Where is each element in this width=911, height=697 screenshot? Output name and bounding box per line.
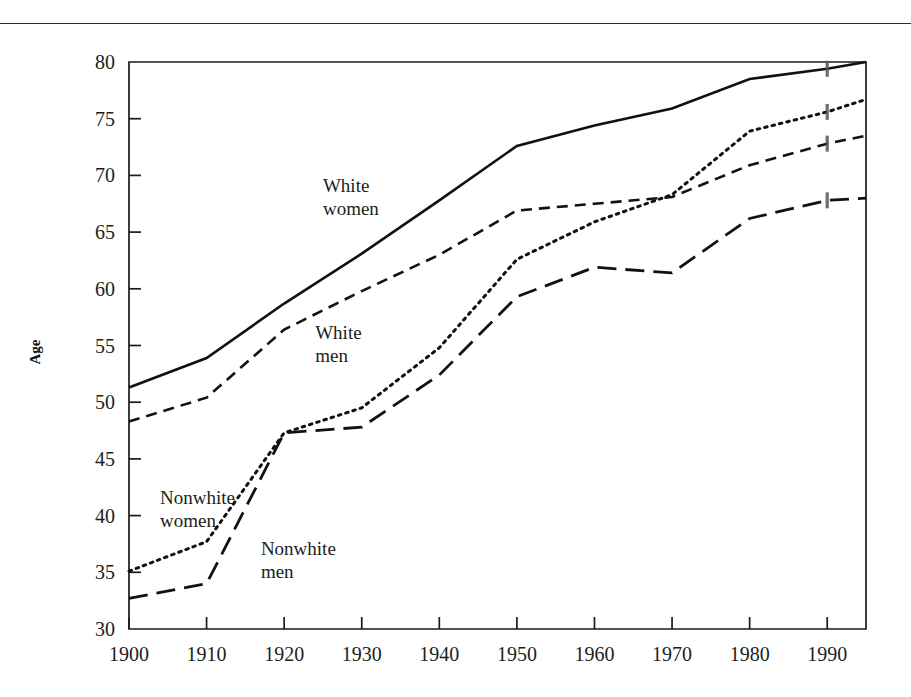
y-tick-label: 60 [95,278,115,300]
y-tick-label: 80 [95,51,115,73]
series-label-1: Whitemen [315,322,361,366]
x-tick-label: 1920 [264,643,304,665]
series-line-3 [129,198,866,598]
x-tick-label: 1950 [497,643,537,665]
y-tick-label: 50 [95,391,115,413]
y-tick-label: 45 [95,448,115,470]
axes-group [129,62,866,629]
x-tick-label: 1980 [730,643,770,665]
x-tick-label: 1930 [342,643,382,665]
y-tick-label: 35 [95,561,115,583]
y-tick-label: 55 [95,335,115,357]
x-tick-label: 1900 [109,643,149,665]
line-chart: 3035404550556065707580 19001910192019301… [0,0,911,697]
data-series-group [129,62,866,598]
y-tick-label: 30 [95,618,115,640]
series-label-3: Nonwhitemen [261,538,336,582]
y-tick-label: 40 [95,505,115,527]
y-tick-label: 75 [95,108,115,130]
series-inline-labels: WhitewomenWhitemenNonwhitewomenNonwhitem… [160,175,379,582]
x-tick-label: 1940 [419,643,459,665]
y-axis-title: Age [27,339,43,364]
y-axis-tick-labels: 3035404550556065707580 [95,51,115,640]
page-root: 3035404550556065707580 19001910192019301… [0,0,911,697]
series-line-1 [129,136,866,422]
x-tick-label: 1960 [574,643,614,665]
series-label-2: Nonwhitewomen [160,487,235,531]
x-tick-label: 1970 [652,643,692,665]
x-axis-tick-labels: 1900191019201930194019501960197019801990 [109,643,847,665]
y-tick-label: 65 [95,221,115,243]
chart-svg: 3035404550556065707580 19001910192019301… [0,0,911,697]
x-tick-label: 1990 [807,643,847,665]
series-label-0: Whitewomen [323,175,379,219]
series-line-0 [129,62,866,387]
x-tick-label: 1910 [187,643,227,665]
plot-frame [129,62,866,629]
y-tick-label: 70 [95,164,115,186]
